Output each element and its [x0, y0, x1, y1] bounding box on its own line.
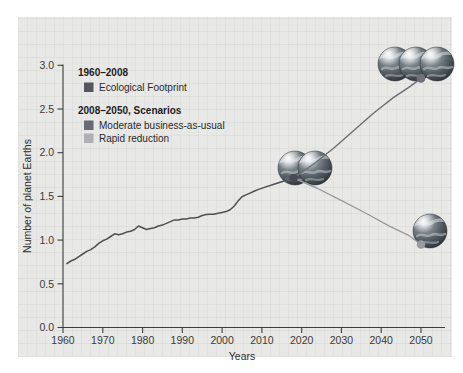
x-axis-tick-labels: 1960 1970 1980 1990 2000 2010 2020 2030 … — [51, 334, 433, 346]
legend-group-one-heading: 1960–2008 — [78, 67, 128, 78]
three-earths-cluster — [378, 47, 454, 81]
legend-group-two-heading: 2008–2050, Scenarios — [78, 105, 182, 116]
y-axis-tick-labels: 0.0 0.5 1.0 1.5 2.0 2.5 3.0 — [39, 59, 54, 333]
x-tick-label: 1960 — [51, 334, 75, 346]
figure-container: 0.0 0.5 1.0 1.5 2.0 2.5 3.0 — [0, 0, 463, 373]
y-tick-label: 3.0 — [39, 59, 54, 71]
x-tick-label: 1970 — [91, 334, 115, 346]
legend-label-ecological-footprint: Ecological Footprint — [99, 82, 187, 93]
series-ecological-footprint — [67, 178, 294, 264]
x-axis-ticks — [63, 328, 421, 334]
legend-label-moderate-business-as-usual: Moderate business-as-usual — [99, 120, 225, 131]
y-tick-label: 2.5 — [39, 103, 54, 115]
x-axis-title: Years — [229, 350, 255, 362]
x-tick-label: 2040 — [370, 334, 394, 346]
ecological-footprint-chart: 0.0 0.5 1.0 1.5 2.0 2.5 3.0 — [0, 0, 463, 373]
rapid-reduction-endpoint-marker — [417, 240, 426, 249]
legend-swatch-ecological-footprint — [84, 83, 94, 93]
y-tick-label: 2.0 — [39, 146, 54, 158]
x-tick-label: 2030 — [330, 334, 354, 346]
x-tick-label: 2020 — [290, 334, 314, 346]
y-axis-title: Number of planet Earths — [21, 139, 33, 253]
x-tick-label: 2010 — [250, 334, 274, 346]
chart-legend: 1960–2008 Ecological Footprint 2008–2050… — [78, 67, 225, 144]
series-rapid-reduction — [294, 178, 421, 245]
legend-swatch-rapid-reduction — [84, 134, 94, 144]
legend-label-rapid-reduction: Rapid reduction — [99, 133, 169, 144]
y-tick-label: 1.0 — [39, 234, 54, 246]
x-tick-label: 1980 — [131, 334, 155, 346]
x-tick-label: 1990 — [171, 334, 195, 346]
y-tick-label: 0.0 — [39, 321, 54, 333]
y-tick-label: 1.5 — [39, 190, 54, 202]
legend-swatch-moderate-business-as-usual — [84, 121, 94, 131]
branch-point-marker — [290, 174, 298, 182]
globe-annotations — [278, 47, 454, 248]
business-as-usual-endpoint-marker — [417, 74, 426, 83]
y-axis-ticks — [58, 65, 64, 327]
x-tick-label: 2000 — [210, 334, 234, 346]
y-tick-label: 0.5 — [39, 278, 54, 290]
x-tick-label: 2050 — [409, 334, 433, 346]
